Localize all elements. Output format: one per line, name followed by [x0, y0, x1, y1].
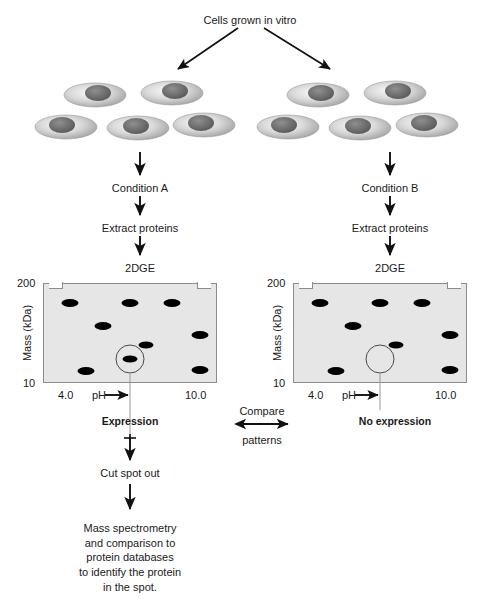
- gel-a-spot-4: [95, 322, 112, 330]
- branch-b-extract-label: Extract proteins: [352, 221, 428, 236]
- branch-a-result-label: Expression: [102, 415, 159, 429]
- gel-b-notch-right: [447, 282, 461, 289]
- analysis-text-block: Mass spectrometry and comparison to prot…: [25, 521, 235, 595]
- gel-b-notch-left: [299, 282, 313, 289]
- gel-b-spot-5: [442, 331, 459, 339]
- gel-a-highlight-circle: [116, 345, 145, 374]
- branch-b-method-label: 2DGE: [375, 261, 405, 276]
- gel-b-spot-2: [372, 299, 389, 307]
- gel-b-spot-8: [327, 367, 344, 375]
- gel-b-x-tick-left: 4.0: [308, 389, 323, 401]
- branch-a-method-label: 2DGE: [125, 261, 155, 276]
- cell-a-3: [33, 109, 99, 143]
- gel-panel-a: [43, 283, 217, 383]
- gel-b-y-axis-label: Mass (kDa): [271, 305, 283, 361]
- analysis-line-4: to identify the protein: [25, 565, 235, 580]
- gel-b-highlight-circle-empty: [366, 345, 395, 374]
- analysis-line-2: and comparison to: [25, 536, 235, 551]
- gel-b-spot-9: [441, 366, 458, 374]
- branch-a-extract-label: Extract proteins: [102, 221, 178, 236]
- gel-a-spot-3: [163, 299, 180, 307]
- gel-a-spot-9: [191, 366, 208, 374]
- analysis-line-3: protein databases: [25, 550, 235, 565]
- gel-b-spot-6: [388, 342, 403, 349]
- gel-a-y-axis-label: Mass (kDa): [21, 305, 33, 361]
- cell-b-5: [394, 107, 460, 141]
- cut-spot-label: Cut spot out: [100, 466, 159, 481]
- cell-a-5: [171, 107, 237, 141]
- gel-a-spot-5: [192, 331, 209, 339]
- gel-a-spot-2: [122, 299, 139, 307]
- gel-a-x-tick-right: 10.0: [185, 389, 206, 401]
- diagram-canvas: Cells grown in vitro: [0, 0, 500, 599]
- analysis-line-5: in the spot.: [25, 580, 235, 595]
- gel-panel-b: [293, 283, 467, 383]
- gel-b-x-tick-right: 10.0: [435, 389, 456, 401]
- cell-b-1: [285, 77, 351, 111]
- gel-b-spot-1: [311, 299, 328, 307]
- gel-a-leader-line: [130, 374, 131, 446]
- cell-b-3: [255, 109, 321, 143]
- branch-b-result-label: No expression: [359, 415, 431, 429]
- cell-a-4: [105, 110, 171, 144]
- gel-a-notch-right: [197, 282, 211, 289]
- gel-b-leader-line: [380, 374, 381, 410]
- compare-label-line2: patterns: [242, 433, 282, 448]
- diagram-title-italic: in vitro: [264, 14, 296, 26]
- analysis-line-1: Mass spectrometry: [25, 521, 235, 536]
- cell-b-2: [362, 75, 428, 109]
- gel-b-spot-4: [345, 322, 362, 330]
- split-arrow-left: [178, 28, 238, 69]
- gel-a-y-tick-bottom: 10: [23, 377, 35, 389]
- gel-a-y-tick-top: 200: [17, 277, 35, 289]
- gel-a-x-axis-label: pH: [92, 389, 106, 401]
- gel-b-y-tick-bottom: 10: [273, 377, 285, 389]
- branch-a-condition-label: Condition A: [112, 181, 168, 196]
- gel-a-spot-1: [61, 299, 78, 307]
- gel-b-y-tick-top: 200: [267, 277, 285, 289]
- gel-b-spot-3: [413, 299, 430, 307]
- cell-a-2: [139, 75, 205, 109]
- cell-a-1: [62, 77, 128, 111]
- diagram-title-prefix: Cells grown: [204, 14, 265, 26]
- split-arrow-right: [264, 28, 330, 69]
- branch-b-condition-label: Condition B: [362, 181, 419, 196]
- diagram-title: Cells grown in vitro: [204, 13, 297, 28]
- gel-a-notch-left: [49, 282, 63, 289]
- gel-a-spot-8: [77, 367, 94, 375]
- compare-label-line1: Compare: [239, 404, 284, 419]
- gel-a-spot-6: [138, 342, 153, 349]
- gel-b-x-axis-label: pH: [342, 389, 356, 401]
- cell-b-4: [327, 110, 393, 144]
- gel-a-x-tick-left: 4.0: [58, 389, 73, 401]
